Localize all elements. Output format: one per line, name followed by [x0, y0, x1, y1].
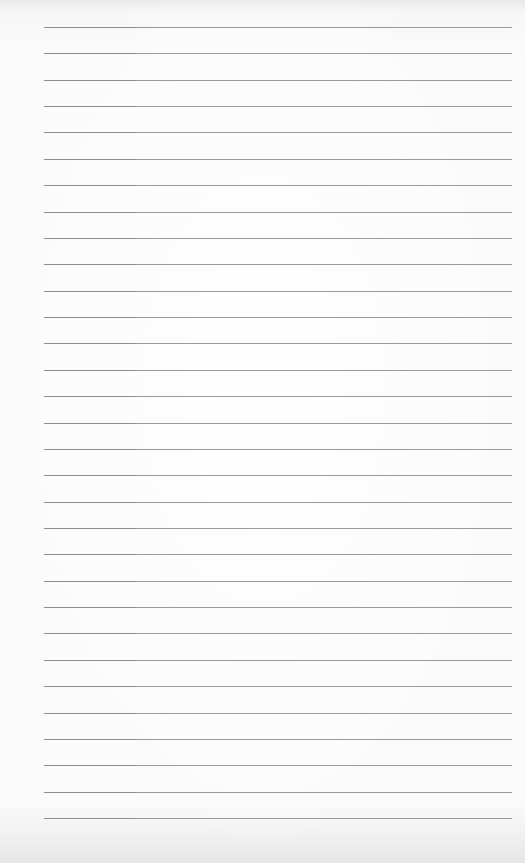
ruled-line-right-segment — [135, 238, 512, 239]
ruled-line — [44, 27, 512, 28]
ruled-line — [44, 185, 512, 186]
ruled-line-right-segment — [135, 317, 512, 318]
ruled-line-right-segment — [135, 423, 512, 424]
ruled-line — [44, 607, 512, 608]
ruled-line-right-segment — [135, 633, 512, 634]
ruled-line — [44, 80, 512, 81]
ruled-line-left-segment — [44, 27, 135, 28]
ruled-line-left-segment — [44, 212, 135, 213]
ruled-line-right-segment — [135, 739, 512, 740]
ruled-line-right-segment — [135, 528, 512, 529]
ruled-line — [44, 554, 512, 555]
ruled-line — [44, 713, 512, 714]
ruled-line-right-segment — [135, 53, 512, 54]
ruled-line-right-segment — [135, 291, 512, 292]
ruled-line-right-segment — [135, 765, 512, 766]
ruled-line-right-segment — [135, 343, 512, 344]
ruled-line-right-segment — [135, 370, 512, 371]
ruled-line-right-segment — [135, 686, 512, 687]
ruled-line — [44, 132, 512, 133]
ruled-line — [44, 449, 512, 450]
ruled-line-right-segment — [135, 607, 512, 608]
ruled-line-left-segment — [44, 80, 135, 81]
ruled-line-left-segment — [44, 238, 135, 239]
ruled-line-right-segment — [135, 212, 512, 213]
ruled-line — [44, 528, 512, 529]
ruled-line-left-segment — [44, 554, 135, 555]
ruled-line-right-segment — [135, 502, 512, 503]
ruled-line — [44, 818, 512, 819]
ruled-line-left-segment — [44, 713, 135, 714]
ruled-line-left-segment — [44, 607, 135, 608]
ruled-line-left-segment — [44, 792, 135, 793]
ruled-line-left-segment — [44, 291, 135, 292]
ruled-line — [44, 159, 512, 160]
ruled-line-right-segment — [135, 159, 512, 160]
ruled-line — [44, 370, 512, 371]
ruled-line — [44, 238, 512, 239]
ruled-line-right-segment — [135, 106, 512, 107]
ruled-line-left-segment — [44, 581, 135, 582]
ruled-line-right-segment — [135, 132, 512, 133]
ruled-line — [44, 686, 512, 687]
ruled-line-left-segment — [44, 818, 135, 819]
ruled-line-right-segment — [135, 792, 512, 793]
ruled-line — [44, 291, 512, 292]
ruled-line — [44, 792, 512, 793]
ruled-line-left-segment — [44, 185, 135, 186]
ruled-line-right-segment — [135, 818, 512, 819]
ruled-line-left-segment — [44, 106, 135, 107]
ruled-line — [44, 475, 512, 476]
ruled-line-left-segment — [44, 765, 135, 766]
ruled-line-right-segment — [135, 27, 512, 28]
ruled-line-left-segment — [44, 396, 135, 397]
ruled-line-left-segment — [44, 264, 135, 265]
ruled-line — [44, 633, 512, 634]
ruled-line — [44, 53, 512, 54]
ruled-line-left-segment — [44, 53, 135, 54]
ruled-line — [44, 212, 512, 213]
ruled-line-left-segment — [44, 449, 135, 450]
ruled-line-left-segment — [44, 502, 135, 503]
ruled-line-left-segment — [44, 132, 135, 133]
ruled-line — [44, 739, 512, 740]
ruled-line — [44, 423, 512, 424]
ruled-line-right-segment — [135, 449, 512, 450]
ruled-line — [44, 343, 512, 344]
ruled-line-right-segment — [135, 396, 512, 397]
ruled-line-left-segment — [44, 660, 135, 661]
ruled-line-left-segment — [44, 739, 135, 740]
ruled-line-left-segment — [44, 370, 135, 371]
lined-paper-sheet — [0, 0, 525, 863]
ruled-line — [44, 581, 512, 582]
ruled-line — [44, 317, 512, 318]
ruled-line-right-segment — [135, 80, 512, 81]
ruled-line-left-segment — [44, 633, 135, 634]
ruled-line-left-segment — [44, 686, 135, 687]
ruled-line-left-segment — [44, 423, 135, 424]
ruled-line — [44, 264, 512, 265]
ruled-line-left-segment — [44, 475, 135, 476]
ruled-line-left-segment — [44, 343, 135, 344]
ruled-line — [44, 502, 512, 503]
ruled-line — [44, 106, 512, 107]
ruled-line — [44, 396, 512, 397]
ruled-line-right-segment — [135, 554, 512, 555]
ruled-line — [44, 765, 512, 766]
ruled-line-right-segment — [135, 475, 512, 476]
ruled-line-left-segment — [44, 159, 135, 160]
ruled-line-right-segment — [135, 264, 512, 265]
ruled-line-right-segment — [135, 713, 512, 714]
ruled-line-left-segment — [44, 528, 135, 529]
ruled-line-right-segment — [135, 581, 512, 582]
ruled-line-right-segment — [135, 185, 512, 186]
ruled-line-left-segment — [44, 317, 135, 318]
ruled-line-right-segment — [135, 660, 512, 661]
ruled-line — [44, 660, 512, 661]
